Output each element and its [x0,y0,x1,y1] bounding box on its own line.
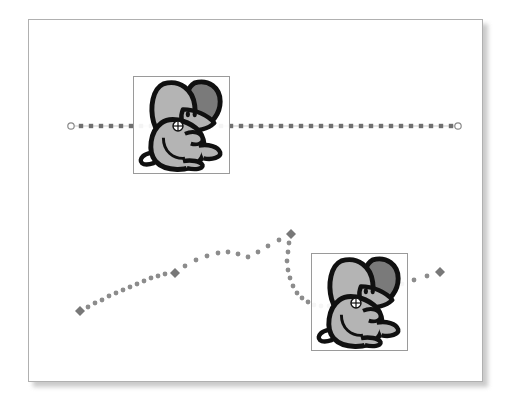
motion-path-canvas[interactable] [28,19,483,382]
mouse-sprite-bottom[interactable] [311,253,408,351]
mouse-sprite-top[interactable] [133,76,230,174]
motion-path-screenshot [0,0,513,410]
mouse-icon [312,254,407,350]
mouse-icon [134,77,229,173]
